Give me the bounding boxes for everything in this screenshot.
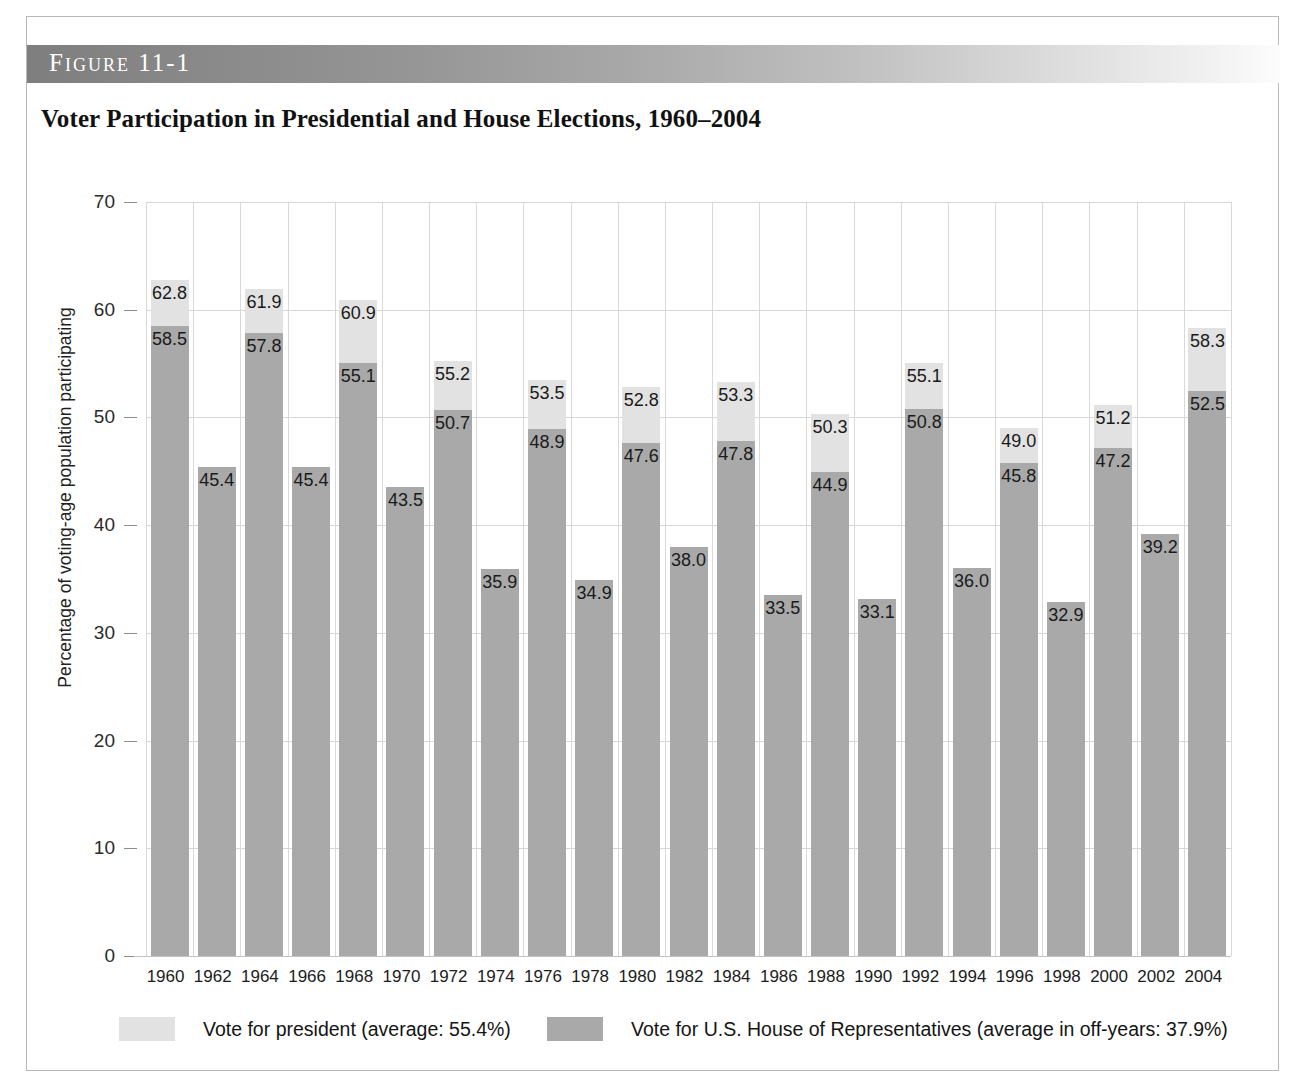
gridline-vertical bbox=[193, 202, 194, 956]
bar-segment-house[interactable] bbox=[151, 326, 189, 956]
bar-segment-house[interactable] bbox=[811, 472, 849, 956]
bar-value-label-president: 52.8 bbox=[622, 390, 660, 411]
bar-segment-house[interactable] bbox=[481, 569, 519, 956]
bar-segment-house[interactable] bbox=[528, 429, 566, 956]
bar-value-label-president: 55.2 bbox=[434, 364, 472, 385]
bar-value-label-house: 36.0 bbox=[953, 571, 991, 592]
bar-group[interactable]: 45.849.0 bbox=[1000, 202, 1038, 956]
bar-value-label-house: 47.8 bbox=[717, 444, 755, 465]
y-axis-ticks: 010203040506070 bbox=[75, 202, 137, 956]
bar-value-label-president: 51.2 bbox=[1094, 408, 1132, 429]
bar-value-label-house: 34.9 bbox=[575, 583, 613, 604]
bar-segment-house[interactable] bbox=[386, 487, 424, 956]
x-axis-baseline bbox=[134, 956, 1231, 957]
legend-item-house: Vote for U.S. House of Representatives (… bbox=[547, 1009, 1228, 1049]
bar-segment-house[interactable] bbox=[1094, 448, 1132, 956]
bar-group[interactable]: 48.953.5 bbox=[528, 202, 566, 956]
bar-segment-house[interactable] bbox=[339, 363, 377, 957]
bar-group[interactable]: 58.562.8 bbox=[151, 202, 189, 956]
x-axis-tick-label: 1984 bbox=[709, 967, 755, 987]
x-axis-tick-label: 1986 bbox=[756, 967, 802, 987]
bar-group[interactable]: 55.160.9 bbox=[339, 202, 377, 956]
bar-segment-house[interactable] bbox=[1188, 391, 1226, 957]
bar-segment-house[interactable] bbox=[1000, 463, 1038, 956]
y-axis-tick-label: 70 bbox=[69, 191, 115, 213]
bar-value-label-house: 50.8 bbox=[905, 412, 943, 433]
bar-group[interactable]: 32.9 bbox=[1047, 202, 1085, 956]
legend-swatch-president-icon bbox=[119, 1017, 175, 1041]
figure-banner: Figure 11-1 bbox=[27, 45, 1280, 83]
bar-group[interactable]: 33.5 bbox=[764, 202, 802, 956]
bar-group[interactable]: 47.652.8 bbox=[622, 202, 660, 956]
legend-label-house: Vote for U.S. House of Representatives (… bbox=[631, 1018, 1228, 1041]
bar-value-label-house: 58.5 bbox=[151, 329, 189, 350]
gridline-vertical bbox=[806, 202, 807, 956]
bar-value-label-president: 53.5 bbox=[528, 383, 566, 404]
x-axis-tick-label: 1972 bbox=[426, 967, 472, 987]
y-axis-tick-label: 50 bbox=[69, 406, 115, 428]
gridline-vertical bbox=[1089, 202, 1090, 956]
bar-group[interactable]: 44.950.3 bbox=[811, 202, 849, 956]
x-axis-tick-label: 1994 bbox=[945, 967, 991, 987]
bar-segment-house[interactable] bbox=[717, 441, 755, 956]
y-axis-tick-label: 10 bbox=[69, 837, 115, 859]
bar-segment-house[interactable] bbox=[1047, 602, 1085, 956]
gridline-vertical bbox=[571, 202, 572, 956]
bar-value-label-house: 47.2 bbox=[1094, 451, 1132, 472]
bar-segment-house[interactable] bbox=[858, 599, 896, 956]
bar-group[interactable]: 50.855.1 bbox=[905, 202, 943, 956]
bar-group[interactable]: 45.4 bbox=[292, 202, 330, 956]
bar-group[interactable]: 45.4 bbox=[198, 202, 236, 956]
bar-value-label-house: 35.9 bbox=[481, 572, 519, 593]
gridline-vertical bbox=[1231, 202, 1232, 956]
bar-group[interactable]: 38.0 bbox=[670, 202, 708, 956]
bar-value-label-president: 53.3 bbox=[717, 385, 755, 406]
bar-value-label-house: 55.1 bbox=[339, 366, 377, 387]
bar-value-label-president: 60.9 bbox=[339, 303, 377, 324]
bar-segment-house[interactable] bbox=[622, 443, 660, 956]
x-axis-tick-label: 1968 bbox=[331, 967, 377, 987]
chart-title: Voter Participation in Presidential and … bbox=[41, 105, 761, 133]
x-axis-tick-label: 1974 bbox=[473, 967, 519, 987]
bar-value-label-house: 44.9 bbox=[811, 475, 849, 496]
bar-segment-house[interactable] bbox=[198, 467, 236, 956]
bar-group[interactable]: 36.0 bbox=[953, 202, 991, 956]
bar-group[interactable]: 50.755.2 bbox=[434, 202, 472, 956]
bar-group[interactable]: 34.9 bbox=[575, 202, 613, 956]
bar-value-label-house: 32.9 bbox=[1047, 605, 1085, 626]
bar-group[interactable]: 47.251.2 bbox=[1094, 202, 1132, 956]
x-axis-tick-label: 1964 bbox=[237, 967, 283, 987]
x-axis-tick-label: 1960 bbox=[143, 967, 189, 987]
bar-group[interactable]: 47.853.3 bbox=[717, 202, 755, 956]
x-axis-tick-label: 2000 bbox=[1086, 967, 1132, 987]
x-axis-tick-label: 1992 bbox=[897, 967, 943, 987]
bar-segment-house[interactable] bbox=[1141, 534, 1179, 956]
bar-group[interactable]: 52.558.3 bbox=[1188, 202, 1226, 956]
bar-value-label-house: 43.5 bbox=[386, 490, 424, 511]
bar-segment-house[interactable] bbox=[905, 409, 943, 956]
y-axis-tick-mark bbox=[124, 525, 137, 526]
gridline-vertical bbox=[1042, 202, 1043, 956]
bar-segment-house[interactable] bbox=[292, 467, 330, 956]
bar-group[interactable]: 57.861.9 bbox=[245, 202, 283, 956]
x-axis-tick-label: 1976 bbox=[520, 967, 566, 987]
bar-group[interactable]: 39.2 bbox=[1141, 202, 1179, 956]
bar-segment-house[interactable] bbox=[670, 547, 708, 956]
bar-segment-house[interactable] bbox=[434, 410, 472, 956]
bar-group[interactable]: 33.1 bbox=[858, 202, 896, 956]
gridline-vertical bbox=[288, 202, 289, 956]
bar-value-label-president: 55.1 bbox=[905, 366, 943, 387]
legend-item-president: Vote for president (average: 55.4%) bbox=[119, 1009, 511, 1049]
x-axis-labels: 1960196219641966196819701972197419761978… bbox=[146, 967, 1231, 993]
bar-segment-house[interactable] bbox=[764, 595, 802, 956]
x-axis-tick-label: 1998 bbox=[1039, 967, 1085, 987]
bar-group[interactable]: 35.9 bbox=[481, 202, 519, 956]
legend-label-president: Vote for president (average: 55.4%) bbox=[203, 1018, 511, 1041]
x-axis-tick-label: 1982 bbox=[662, 967, 708, 987]
x-axis-tick-label: 1966 bbox=[284, 967, 330, 987]
bar-segment-house[interactable] bbox=[953, 568, 991, 956]
bar-group[interactable]: 43.5 bbox=[386, 202, 424, 956]
bar-segment-house[interactable] bbox=[245, 333, 283, 956]
x-axis-tick-label: 1990 bbox=[850, 967, 896, 987]
bar-segment-house[interactable] bbox=[575, 580, 613, 956]
